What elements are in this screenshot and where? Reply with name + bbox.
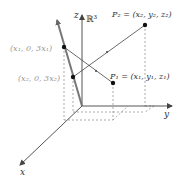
x-axis: [20, 106, 82, 165]
segment-q2-p2: [73, 25, 145, 77]
point-p2: [143, 23, 147, 27]
diagram-canvas: z ℝ³ y x P₂ = (x₂, y₂, z₂) P₁ = (x₁, y₁,…: [0, 0, 187, 178]
point-p1: [111, 81, 115, 85]
p1-label: P₁ = (x₁, y₁, z₁): [109, 72, 170, 81]
z-axis-label: z: [73, 10, 79, 20]
point-q1: [62, 45, 66, 49]
q2-label: (x₂, 0, 3x₂): [18, 74, 60, 83]
y-axis-label: y: [163, 109, 170, 119]
q1-label: (x₁, 0, 3x₁): [10, 44, 52, 53]
point-q2: [71, 75, 75, 79]
plane-line: [57, 20, 82, 106]
p2-label: P₂ = (x₂, y₂, z₂): [111, 10, 172, 19]
space-label: ℝ³: [86, 14, 97, 24]
x-axis-label: x: [20, 167, 25, 177]
